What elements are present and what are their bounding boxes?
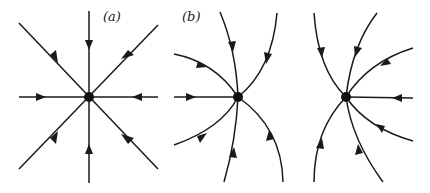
critical-point-b [233, 92, 243, 102]
critical-point-a [84, 92, 94, 102]
panel-c-improper-node [314, 13, 413, 182]
panel-a-star-node [19, 11, 158, 183]
panel-b-improper-node [174, 12, 283, 182]
critical-point-c [341, 92, 351, 102]
phase-portrait-diagram [0, 0, 430, 193]
